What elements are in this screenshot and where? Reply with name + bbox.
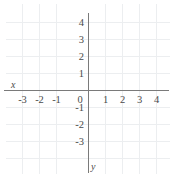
y-tick-label--3: -3: [75, 136, 84, 147]
y-tick-label-3: 3: [79, 34, 84, 45]
plot-canvas: -3 -2 -1 0 1 2 3 4 4 3 2 1 -1 -2 -3 x y: [0, 0, 173, 178]
x-tick-label-2: 2: [120, 94, 125, 105]
y-tick-label--2: -2: [75, 119, 84, 130]
coordinate-plane-figure: -3 -2 -1 0 1 2 3 4 4 3 2 1 -1 -2 -3 x y: [0, 0, 173, 178]
y-tick-label-2: 2: [79, 51, 84, 62]
x-tick-label-1: 1: [103, 94, 108, 105]
x-tick-label--3: -3: [18, 94, 27, 105]
x-tick-label-4: 4: [154, 94, 160, 105]
grid-vertical-lines: [23, 4, 157, 174]
x-axis-label: x: [10, 79, 16, 90]
y-tick-label--1: -1: [75, 102, 84, 113]
y-axis-label: y: [90, 161, 96, 172]
y-tick-label-4: 4: [79, 17, 85, 28]
y-axis-tick-labels: 4 3 2 1 -1 -2 -3: [75, 17, 85, 147]
y-tick-label-1: 1: [79, 68, 84, 79]
x-tick-label--2: -2: [35, 94, 44, 105]
x-tick-label-3: 3: [137, 94, 142, 105]
x-tick-label--1: -1: [52, 94, 61, 105]
